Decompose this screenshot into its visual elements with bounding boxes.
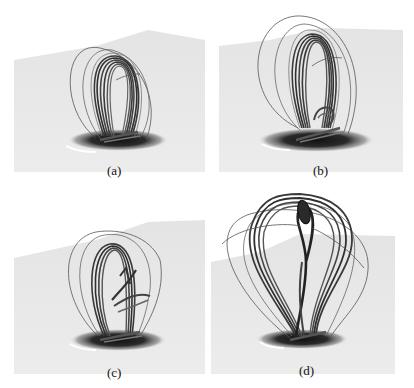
panel-a: (a) — [14, 30, 205, 178]
figure: (a) (b) — [0, 0, 414, 388]
panel-caption-a: (a) — [107, 163, 121, 178]
panel-c: (c) — [14, 220, 205, 380]
panel-caption-b: (b) — [313, 163, 328, 178]
panel-caption-c: (c) — [107, 365, 121, 380]
panel-d: (d) — [211, 194, 395, 378]
surface-plane — [14, 220, 205, 374]
panel-caption-d: (d) — [299, 363, 314, 378]
panel-b: (b) — [219, 16, 403, 178]
